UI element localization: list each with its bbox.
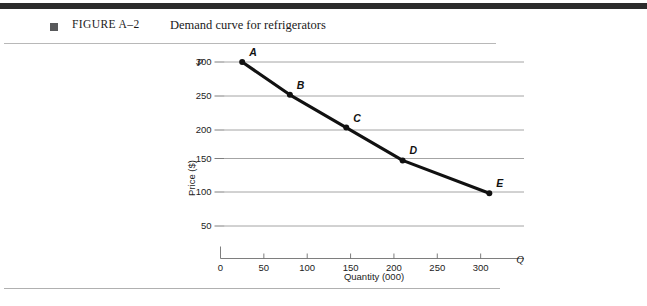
data-point-label: C (353, 112, 361, 124)
x-tick-label: 250 (429, 262, 445, 273)
y-axis-title: Price ($) (186, 160, 197, 196)
x-tick-label: 300 (473, 262, 489, 273)
data-series-group (239, 59, 492, 196)
y-tick-label: 250 (196, 90, 212, 101)
data-point-marker (287, 92, 293, 98)
y-tick-label: 150 (196, 153, 212, 164)
point-label-group: ABCDE (248, 46, 504, 189)
x-tick-label: 100 (299, 262, 315, 273)
data-point-marker (400, 157, 406, 163)
x-axis-group (221, 247, 525, 259)
data-point-marker (343, 125, 349, 131)
demand-curve-plot: 50100150200250300 050100150200250300 ABC… (0, 0, 647, 306)
data-point-label: D (410, 144, 418, 156)
y-tick-label-group: 50100150200250300 (196, 56, 212, 231)
data-point-marker (486, 190, 492, 196)
data-point-label: A (248, 46, 257, 58)
demand-curve-line (242, 62, 489, 193)
x-axis-symbol: Q (516, 254, 524, 265)
chart-area: 50100150200250300 050100150200250300 ABC… (0, 0, 647, 306)
data-point-marker (239, 59, 245, 65)
x-axis-title: Quantity (000) (344, 271, 404, 282)
data-point-label: E (496, 177, 504, 189)
y-axis-symbol: P (196, 57, 204, 68)
data-point-label: B (297, 79, 305, 91)
y-tick-label: 100 (196, 186, 212, 197)
y-tick-label: 200 (196, 124, 212, 135)
y-tick-group (215, 62, 225, 226)
y-tick-label: 50 (201, 220, 212, 231)
x-tick-label: 0 (218, 262, 223, 273)
x-tick-label: 50 (259, 262, 270, 273)
